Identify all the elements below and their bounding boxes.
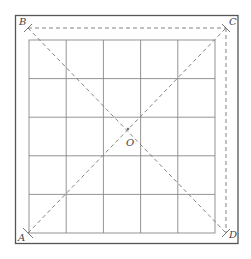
- label-c: C: [229, 16, 237, 27]
- label-b: B: [18, 16, 26, 27]
- grid: [29, 40, 215, 233]
- label-o: O: [126, 137, 134, 148]
- label-d: D: [228, 229, 237, 240]
- geometry-diagram: A B C D O: [0, 0, 251, 259]
- label-a: A: [17, 232, 25, 243]
- grid-border: [29, 40, 215, 233]
- point-o-mark: [127, 128, 129, 130]
